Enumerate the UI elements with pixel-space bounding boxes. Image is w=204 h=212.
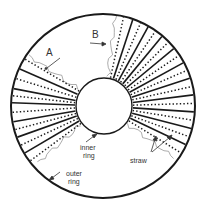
straw-dotted-line: [125, 42, 168, 85]
label-outer-ring-2: ring: [68, 178, 80, 186]
label-inner-ring-2: ring: [83, 152, 95, 160]
straw-divider-line: [123, 37, 162, 84]
label-b: B: [92, 29, 99, 40]
straw-dotted-line: [132, 87, 192, 100]
straw-divider-line: [130, 63, 184, 92]
label-inner-ring-1: inner: [80, 144, 96, 151]
straw-divider-line: [20, 69, 78, 94]
arrow-b-icon: [90, 42, 106, 46]
straw-divider-line: [130, 118, 185, 144]
label-outer-ring-1: outer: [66, 170, 83, 177]
arrow-outer-ring-icon: [49, 172, 60, 180]
straw-divider-line: [12, 103, 75, 105]
straw-dotted-line: [21, 118, 78, 145]
straw-dotted-line: [133, 103, 194, 105]
label-a: A: [46, 47, 53, 58]
straw-divider-line: [133, 108, 194, 112]
arrow-inner-ring-icon: [86, 134, 97, 142]
straw-dotted-line: [12, 108, 75, 112]
label-straw: straw: [130, 157, 148, 164]
straw-divider-line: [133, 95, 194, 103]
inner-ring: [76, 78, 132, 134]
arrow-a-icon: [45, 58, 60, 70]
straw-divider-line: [14, 89, 76, 101]
straw-fringe: [37, 126, 80, 162]
straw-fringe: [107, 15, 117, 76]
straw-ring-diagram: A B inner ring outer ring straw: [0, 0, 204, 212]
